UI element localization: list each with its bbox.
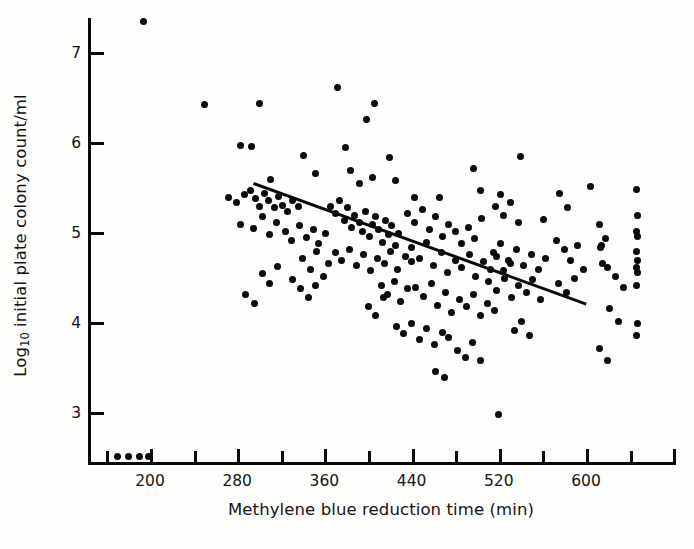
data-point [458, 264, 465, 271]
x-tick-560 [542, 451, 545, 462]
data-point [432, 213, 439, 220]
x-tick-480 [455, 451, 458, 462]
data-point [266, 280, 273, 287]
data-point [478, 215, 485, 222]
y-tick-label-4: 4 [71, 314, 81, 332]
data-point [363, 116, 370, 123]
data-point [454, 347, 461, 354]
x-tick-320 [281, 451, 284, 462]
data-point [561, 246, 568, 253]
data-point [634, 320, 641, 327]
data-point [374, 255, 381, 262]
data-point [553, 237, 560, 244]
data-point [114, 453, 121, 460]
data-point [259, 270, 266, 277]
data-point [477, 357, 484, 364]
data-point [507, 199, 514, 206]
data-point [436, 194, 443, 201]
y-tick-6 [91, 142, 104, 145]
data-point [353, 262, 360, 269]
data-point [256, 203, 263, 210]
x-tick-600 [586, 449, 589, 462]
data-point [315, 240, 322, 247]
x-tick-label-200: 200 [135, 472, 165, 490]
data-point [347, 167, 354, 174]
data-point [634, 233, 641, 240]
data-point [265, 197, 272, 204]
data-point [492, 203, 499, 210]
data-point [505, 257, 512, 264]
data-point [477, 187, 484, 194]
data-point [439, 329, 446, 336]
data-point [491, 307, 498, 314]
data-point [416, 255, 423, 262]
data-point [325, 260, 332, 267]
data-point [295, 203, 302, 210]
data-point [580, 266, 587, 273]
data-point [334, 84, 341, 91]
data-point [289, 276, 296, 283]
data-point [400, 330, 407, 337]
x-tick-160 [106, 451, 109, 462]
data-point [391, 278, 398, 285]
data-point [434, 302, 441, 309]
data-point [342, 144, 349, 151]
data-point [518, 318, 525, 325]
data-point [428, 280, 435, 287]
data-point [537, 296, 544, 303]
data-point [380, 294, 387, 301]
y-tick-4 [91, 322, 104, 325]
data-point [432, 368, 439, 375]
data-point [513, 246, 520, 253]
data-point [372, 312, 379, 319]
y-tick-3 [91, 412, 104, 415]
data-point [303, 234, 310, 241]
y-tick-label-7: 7 [71, 44, 81, 62]
data-point [517, 153, 524, 160]
data-point [366, 233, 373, 240]
data-point [250, 225, 257, 232]
data-point [606, 305, 613, 312]
data-point [471, 235, 478, 242]
data-point [633, 332, 640, 339]
data-point [448, 309, 455, 316]
data-point [312, 170, 319, 177]
data-point [387, 248, 394, 255]
data-point [365, 303, 372, 310]
data-point [274, 263, 281, 270]
x-tick-440 [412, 449, 415, 462]
data-point [305, 294, 312, 301]
x-axis-end-tick [673, 449, 676, 462]
data-point [587, 183, 594, 190]
x-tick-label-520: 520 [484, 472, 514, 490]
plot-area: 20028036044052060034567 [0, 0, 694, 549]
data-point [430, 262, 437, 269]
data-point [520, 262, 527, 269]
data-point [633, 186, 640, 193]
x-tick-label-600: 600 [571, 472, 601, 490]
x-tick-label-360: 360 [310, 472, 340, 490]
data-point [307, 266, 314, 273]
y-tick-7 [91, 52, 104, 55]
data-point [602, 235, 609, 242]
data-point [419, 206, 426, 213]
data-point [596, 345, 603, 352]
data-point [256, 100, 263, 107]
x-tick-640 [630, 451, 633, 462]
data-point [297, 285, 304, 292]
x-tick-360 [324, 449, 327, 462]
data-point [458, 240, 465, 247]
data-point [312, 282, 319, 289]
data-point [444, 269, 451, 276]
data-point [466, 251, 473, 258]
data-point [456, 296, 463, 303]
data-point [201, 101, 208, 108]
data-point [296, 222, 303, 229]
data-point [523, 289, 530, 296]
data-point [408, 244, 415, 251]
data-point [299, 255, 306, 262]
x-tick-240 [194, 451, 197, 462]
data-point [633, 282, 640, 289]
data-point [500, 212, 507, 219]
data-point [445, 334, 452, 341]
